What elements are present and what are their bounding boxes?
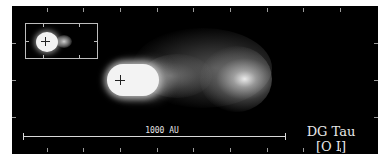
- inset-tick: [79, 55, 80, 58]
- frame-tick: [267, 8, 268, 12]
- inset-tick: [43, 24, 44, 27]
- frame-tick: [267, 148, 268, 152]
- frame-tick: [303, 8, 304, 12]
- frame-tick: [340, 8, 341, 12]
- inset-tick: [26, 41, 29, 42]
- inset-knot: [56, 35, 72, 48]
- frame-tick: [83, 8, 84, 12]
- frame-tick: [47, 148, 48, 152]
- frame-tick: [230, 148, 231, 152]
- star-position-marker: [115, 75, 125, 85]
- scale-bar: [23, 136, 286, 137]
- frame-tick: [374, 80, 378, 81]
- frame-tick: [193, 8, 194, 12]
- frame-tick: [120, 8, 121, 12]
- image-frame: 1000 AU DG Tau [O I]: [12, 6, 378, 154]
- frame-tick: [230, 8, 231, 12]
- frame-tick: [193, 148, 194, 152]
- frame-tick: [157, 148, 158, 152]
- inset-box: [25, 23, 98, 59]
- frame-tick: [12, 80, 16, 81]
- frame-tick: [120, 148, 121, 152]
- inset-tick: [43, 55, 44, 58]
- scale-bar-end: [23, 133, 24, 140]
- frame-tick: [12, 117, 16, 118]
- object-name: DG Tau: [296, 124, 366, 139]
- scale-bar-label: 1000 AU: [132, 126, 192, 135]
- object-label: DG Tau [O I]: [296, 124, 366, 154]
- inset-tick: [94, 41, 97, 42]
- emission-line: [O I]: [296, 139, 366, 154]
- inset-star-marker: [41, 37, 50, 46]
- scale-bar-end: [285, 133, 286, 140]
- frame-tick: [374, 117, 378, 118]
- frame-tick: [12, 43, 16, 44]
- inset-tick: [79, 24, 80, 27]
- frame-tick: [374, 43, 378, 44]
- frame-tick: [157, 8, 158, 12]
- frame-tick: [47, 8, 48, 12]
- frame-tick: [83, 148, 84, 152]
